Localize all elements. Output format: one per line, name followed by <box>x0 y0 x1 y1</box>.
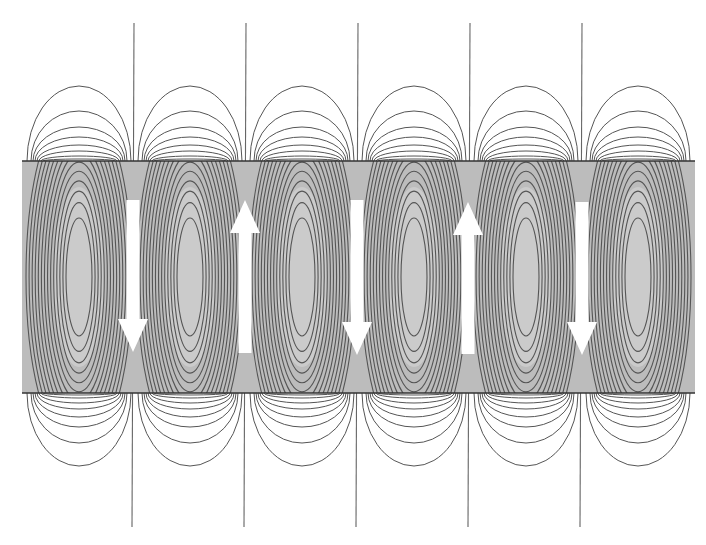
magnetized-slab-diagram <box>0 0 706 545</box>
diagram-canvas <box>0 0 706 545</box>
